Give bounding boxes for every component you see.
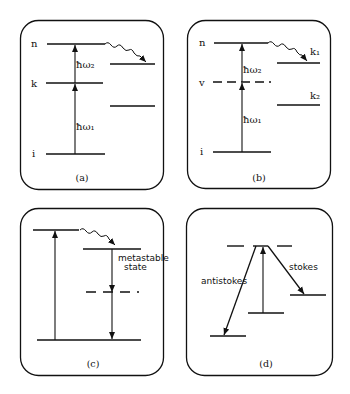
panel-a: n k i ħω₂ ħω₁ (a) [21, 21, 164, 190]
caption-a: (a) [75, 172, 88, 183]
wavy-relaxation-arrow [80, 229, 115, 245]
level-label-i: i [200, 146, 203, 157]
caption-d: (d) [259, 358, 273, 369]
arrow-antistokes [224, 246, 256, 335]
label-hw1: ħω₁ [76, 121, 95, 132]
caption-c: (c) [87, 358, 100, 369]
level-label-i: i [32, 148, 35, 159]
label-hw2: ħω₂ [243, 64, 262, 75]
panel-d: stokes antistokes (d) [187, 209, 333, 376]
level-label-v: v [198, 77, 205, 88]
level-label-k: k [31, 78, 38, 89]
wavy-relaxation-arrow [105, 43, 146, 62]
stokes-label: stokes [289, 262, 318, 272]
label-hw2: ħω₂ [76, 59, 95, 70]
panel-a-frame [21, 21, 164, 190]
wavy-relaxation-arrow [268, 42, 307, 61]
antistokes-label: antistokes [201, 276, 247, 286]
panel-b: n v i k₁ k₂ ħω₂ ħω₁ (b) [188, 21, 331, 189]
level-label-n: n [31, 38, 38, 49]
metastable-state-label-line2: state [124, 262, 147, 272]
energy-level-diagrams: n k i ħω₂ ħω₁ (a) n v i k₁ k₂ ħω₂ ħω₁ (b… [0, 0, 350, 394]
caption-b: (b) [252, 172, 266, 183]
level-label-n: n [199, 37, 206, 48]
level-label-k2: k₂ [310, 90, 320, 101]
level-label-k1: k₁ [310, 46, 320, 57]
panel-d-frame [187, 209, 333, 376]
label-hw1: ħω₁ [243, 114, 262, 125]
panel-c: metastable state (c) [21, 209, 170, 376]
